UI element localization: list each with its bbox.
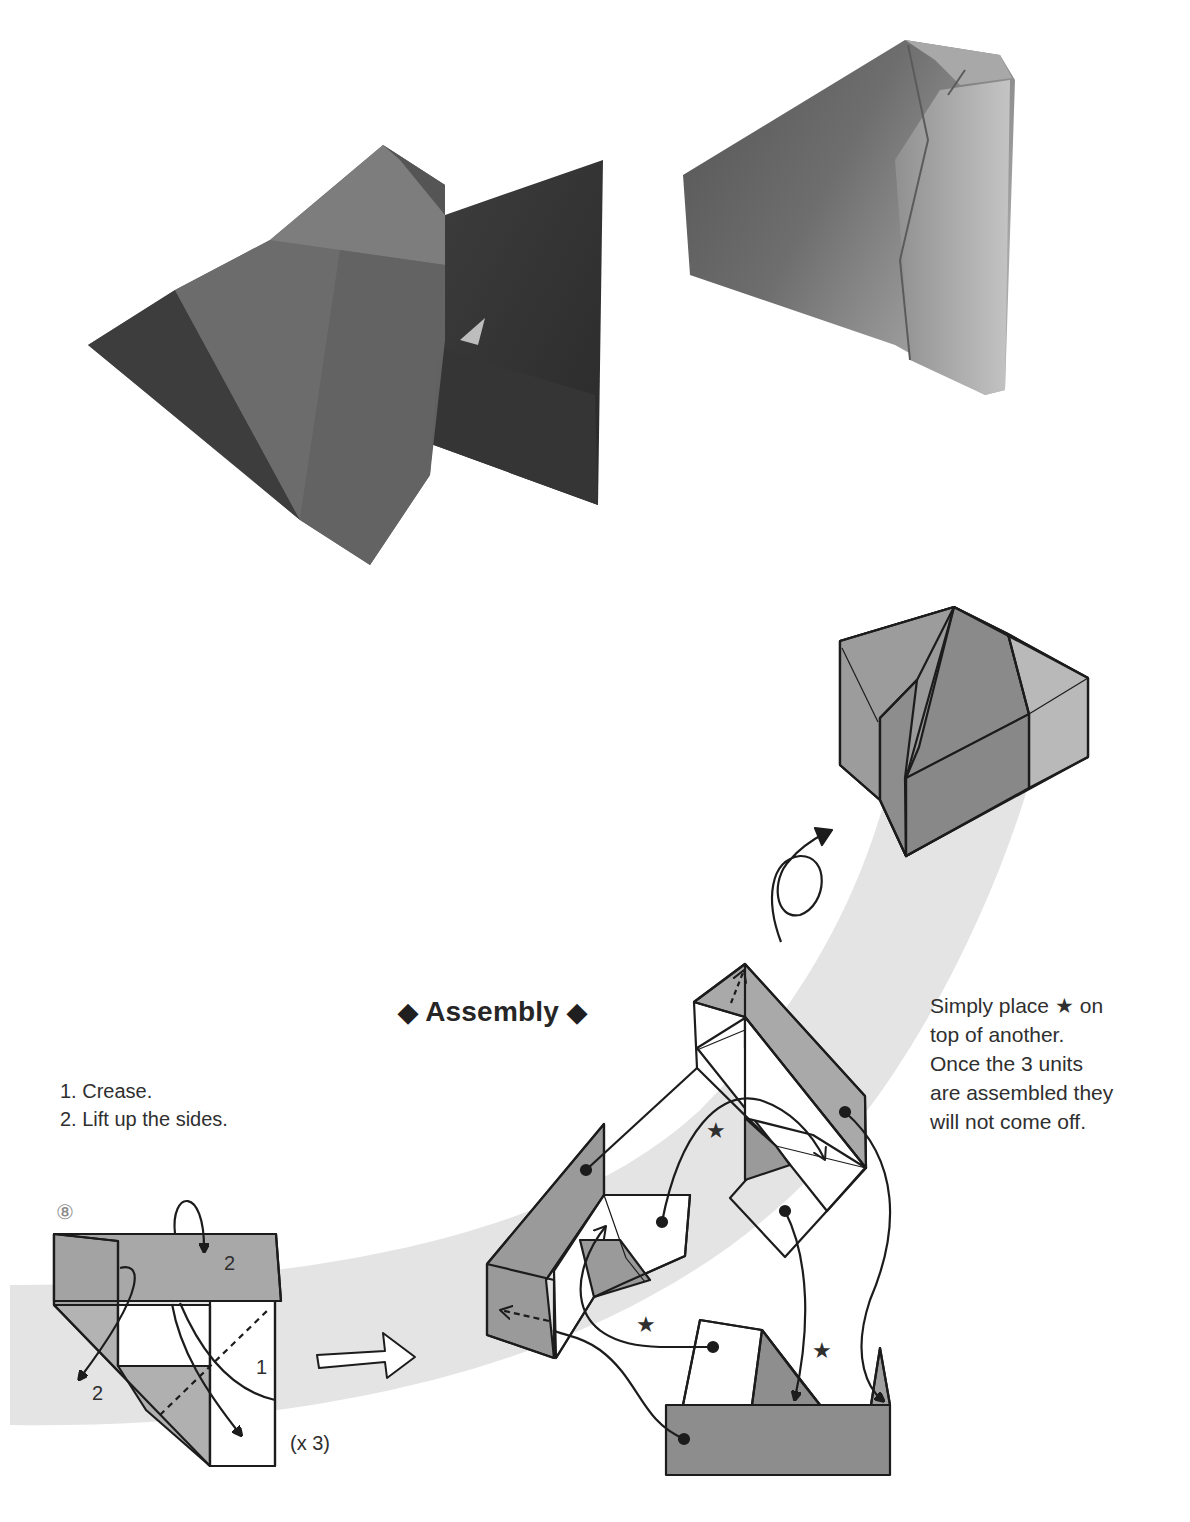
next-step-arrow-icon [317,1333,415,1378]
note-line: are assembled they [930,1078,1113,1107]
note-line: top of another. [930,1020,1113,1049]
assembly-diagram [0,0,1190,1522]
star-icon: ★ [812,1338,832,1364]
diamond-icon: ◆ [567,997,587,1027]
step8-instructions: 1. Crease. 2. Lift up the sides. [60,1077,228,1133]
star-icon: ★ [706,1118,726,1144]
fold-label-2-left: 2 [92,1382,103,1405]
step8-diagram [54,1201,281,1466]
note-line: will not come off. [930,1107,1113,1136]
note-line: Simply place ★ on [930,991,1113,1020]
instruction-line: 2. Lift up the sides. [60,1105,228,1133]
fold-label-2-top: 2 [224,1252,235,1275]
assembly-units [487,964,890,1475]
instruction-line: 1. Crease. [60,1077,228,1105]
assembly-note: Simply place ★ on top of another. Once t… [930,991,1113,1136]
note-line: Once the 3 units [930,1049,1113,1078]
fold-label-1: 1 [256,1356,267,1379]
step-number: ⑧ [56,1200,74,1224]
assembly-title: ◆ Assembly ◆ [398,996,587,1028]
repeat-count: (x 3) [290,1432,330,1455]
turn-over-arrow-icon [772,828,832,942]
final-box-model [840,607,1088,856]
diamond-icon: ◆ [398,997,418,1027]
assembly-title-text: Assembly [425,996,559,1027]
star-icon: ★ [636,1312,656,1338]
